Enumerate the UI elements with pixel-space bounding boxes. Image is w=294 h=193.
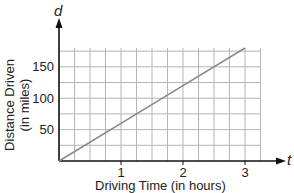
y-axis-variable: d bbox=[54, 2, 62, 19]
x-tick-label-3: 3 bbox=[235, 165, 255, 180]
y-axis-title: Distance Driven (in miles) bbox=[2, 35, 32, 175]
grid-lines bbox=[59, 48, 261, 161]
x-axis-variable: t bbox=[287, 151, 291, 168]
x-axis-arrow-icon bbox=[276, 158, 286, 165]
y-axis-title-line2: (in miles) bbox=[17, 35, 32, 175]
y-axis-arrow-icon bbox=[56, 18, 63, 28]
x-axis-title: Driving Time (in hours) bbox=[95, 178, 226, 193]
y-axis-title-line1: Distance Driven bbox=[2, 35, 17, 175]
